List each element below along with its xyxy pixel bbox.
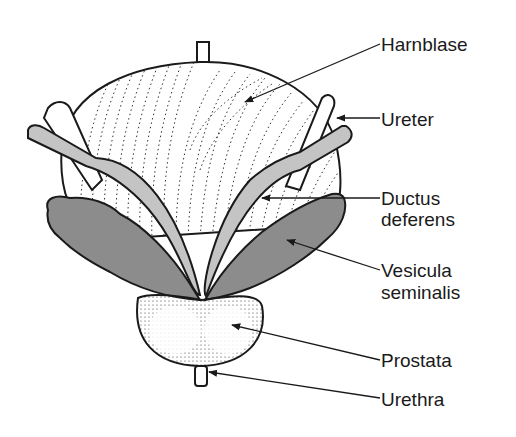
label-harnblase: Harnblase bbox=[381, 34, 468, 55]
label-deferens: deferens bbox=[381, 209, 455, 230]
label-ureter: Ureter bbox=[381, 109, 434, 130]
label-seminalis: seminalis bbox=[381, 282, 460, 303]
urethra bbox=[195, 366, 207, 386]
urachus bbox=[197, 42, 209, 64]
label-ductus: Ductus bbox=[381, 188, 440, 209]
label-vesicula: Vesicula bbox=[381, 260, 452, 281]
prostata bbox=[137, 295, 263, 366]
label-urethra: Urethra bbox=[381, 389, 444, 410]
label-prostata: Prostata bbox=[381, 350, 452, 371]
